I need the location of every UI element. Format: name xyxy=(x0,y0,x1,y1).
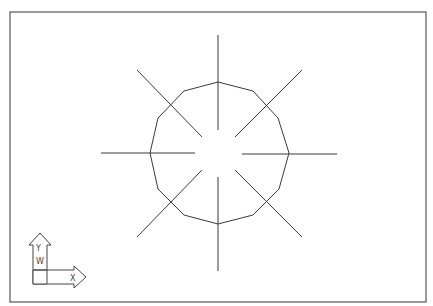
ucs-icon: Y W X xyxy=(29,233,86,288)
ray-southeast[interactable] xyxy=(235,170,302,237)
ucs-x-label: X xyxy=(70,274,76,283)
ray-northeast[interactable] xyxy=(235,70,302,137)
ray-northwest[interactable] xyxy=(137,70,202,137)
radial-lines xyxy=(101,35,337,271)
ray-southwest[interactable] xyxy=(137,170,202,237)
ucs-y-label: Y xyxy=(35,244,41,253)
drawing-canvas[interactable]: Y W X xyxy=(0,0,433,306)
ucs-w-label: W xyxy=(36,257,44,266)
